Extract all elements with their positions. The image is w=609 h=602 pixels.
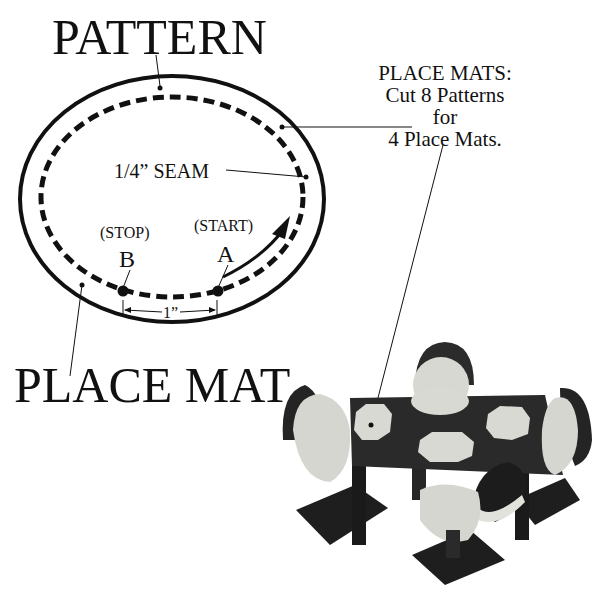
chair-cushion-left	[293, 394, 350, 482]
start-label: (START)	[194, 217, 253, 235]
point-b-label: B	[119, 246, 135, 272]
seam-leader	[226, 170, 306, 177]
table-leg-front-left	[352, 465, 366, 545]
placemat-front	[418, 432, 474, 462]
point-a-marker	[213, 286, 224, 297]
furniture-photo	[283, 342, 592, 585]
arrow-head-icon	[272, 216, 290, 239]
seam-leader-dot	[304, 175, 309, 180]
chair-post-front	[446, 530, 460, 558]
point-a-label: A	[217, 241, 235, 267]
placemat-right	[486, 406, 530, 440]
chair-base-left	[296, 485, 388, 545]
seam-label: 1/4” SEAM	[114, 160, 209, 182]
place-mat-leader	[70, 285, 82, 376]
dim-arrow-left-icon	[124, 307, 131, 313]
dimension-label: 1”	[163, 304, 178, 321]
point-b-leader	[123, 270, 130, 288]
pattern-leader-dot	[158, 86, 163, 91]
pattern-outline	[20, 76, 324, 322]
chair-cushion-right	[542, 397, 578, 475]
pattern-leader	[156, 55, 160, 86]
placemat-back	[411, 387, 469, 415]
point-b-marker	[118, 286, 129, 297]
instructions-leader-top-dot	[280, 125, 285, 130]
seam-line	[41, 97, 303, 297]
pattern-diagram: 1/4” SEAM (STOP) (START) B A 1”	[0, 0, 609, 602]
placemat-leader-dot	[369, 423, 374, 428]
dim-arrow-right-icon	[209, 307, 216, 313]
stop-label: (STOP)	[100, 224, 150, 242]
